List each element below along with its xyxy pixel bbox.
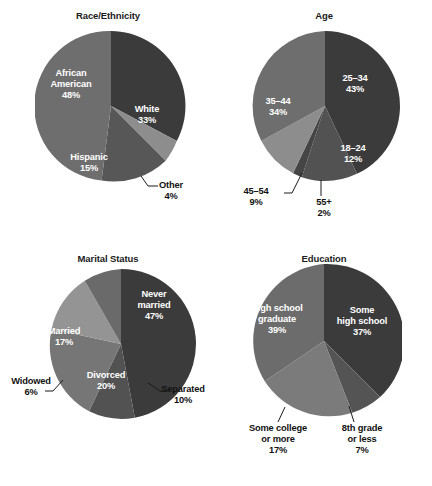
label-other: Other 4% xyxy=(143,180,199,202)
label-age-55-plus: 55+ 2% xyxy=(296,197,352,219)
panel-education: Education High school graduate 39% Some … xyxy=(216,243,432,486)
panel-age: Age 25–34 43% 35–44 34% 18–24 xyxy=(216,0,432,243)
panel-race-ethnicity: Race/Ethnicity African American 48% Whit… xyxy=(0,0,216,243)
label-some-college-or-more: Some college or more 17% xyxy=(226,423,330,457)
label-age-45-54: 45–54 9% xyxy=(228,186,284,208)
panel-marital-status: Marital Status Never married 47% Married xyxy=(0,243,216,486)
pie-chart-figure: Race/Ethnicity African American 48% Whit… xyxy=(0,0,432,486)
label-separated: Separated 10% xyxy=(150,384,216,406)
label-widowed: Widowed 6% xyxy=(0,376,62,398)
leader-line-widowed xyxy=(0,243,216,486)
label-8th-grade-or-less: 8th grade or less 7% xyxy=(322,423,402,457)
leader-line-other xyxy=(0,0,216,243)
